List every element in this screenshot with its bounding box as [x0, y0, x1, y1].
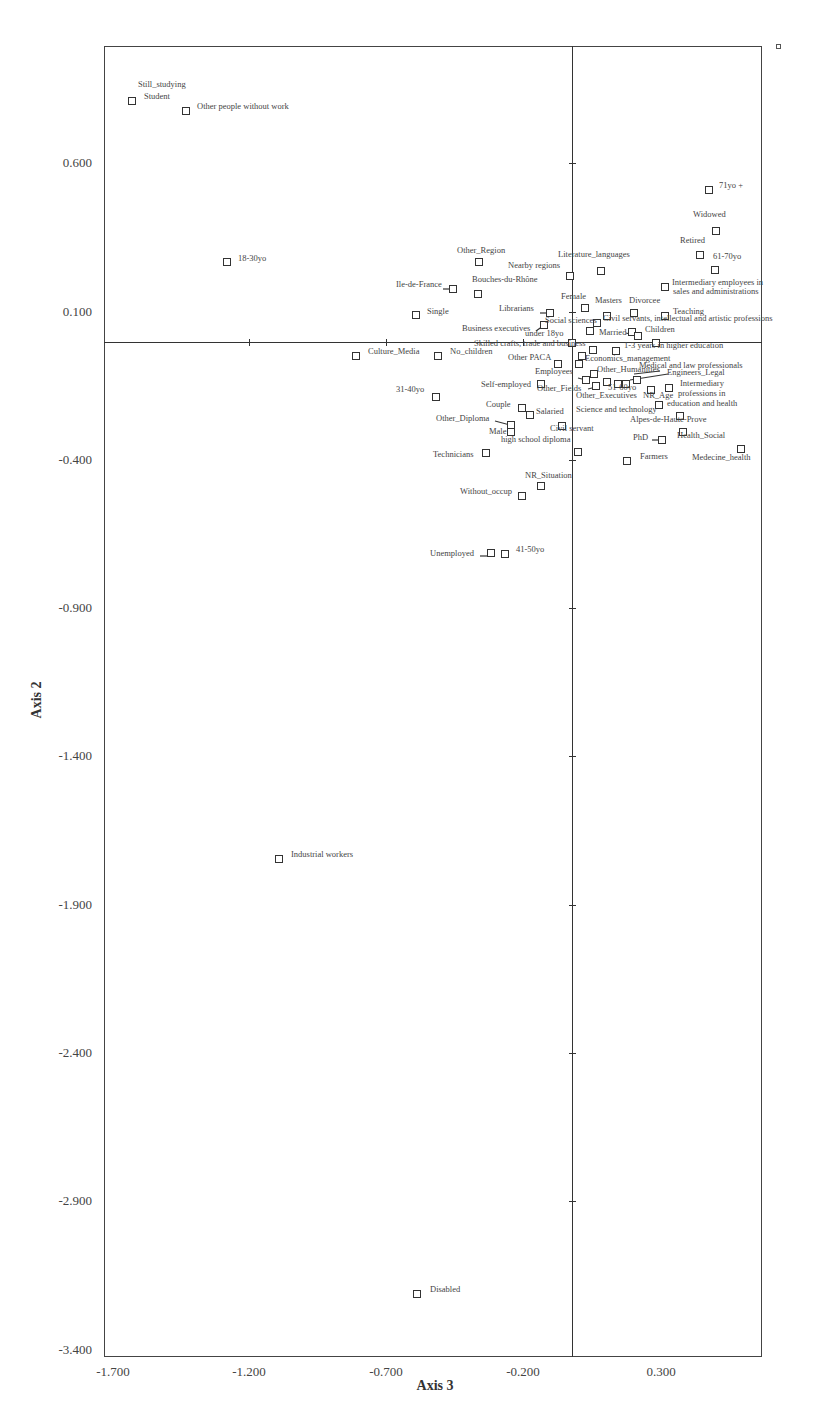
axis-tick	[386, 339, 387, 346]
y-tick-label: -3.400	[58, 1342, 92, 1358]
marker-literature-languages	[597, 267, 605, 275]
point-label: Bouches-du-Rhône	[472, 274, 538, 284]
axis-tick	[569, 608, 576, 609]
legend-marker-icon	[776, 44, 781, 49]
point-label: sales and administrations	[673, 286, 758, 296]
point-label: Widowed	[693, 209, 726, 219]
marker-nr-situation	[537, 482, 545, 490]
point-label: Self-employed	[481, 379, 531, 389]
marker-female	[581, 304, 589, 312]
marker-other-people-without-work	[182, 107, 190, 115]
marker-salaried	[526, 411, 534, 419]
y-tick-label: 0.600	[63, 155, 92, 171]
point-label: Other people without work	[197, 101, 289, 111]
point-label: Other_Humanities	[597, 364, 660, 374]
y-tick-label: -2.400	[58, 1045, 92, 1061]
marker-disabled	[413, 1290, 421, 1298]
point-label: Single	[427, 306, 449, 316]
point-label: professions in	[678, 388, 725, 398]
point-label: NR_Situation	[525, 470, 572, 480]
y-tick-label: -2.900	[58, 1193, 92, 1209]
point-label: Business executives	[462, 323, 530, 333]
axis-tick	[569, 1201, 576, 1202]
point-label: Disabled	[430, 1284, 460, 1294]
point-label: Ile-de-France	[396, 279, 442, 289]
point-label: Couple	[486, 399, 511, 409]
point-label: Unemployed	[430, 548, 474, 558]
point-label: PhD	[633, 432, 648, 442]
axis-tick	[569, 905, 576, 906]
point-label: Alpes-de-Haute-Prove	[630, 414, 706, 424]
point-label: Civil servant	[550, 423, 594, 433]
marker-31-40yo	[432, 393, 440, 401]
x-tick-label: -0.700	[369, 1364, 403, 1380]
point-label: Other_Fields	[537, 383, 581, 393]
axis-tick	[569, 312, 576, 313]
marker-civil-servants-2	[586, 327, 594, 335]
marker-other-region	[475, 258, 483, 266]
point-label: Female	[561, 291, 586, 301]
vertical-zero-axis	[572, 46, 573, 1357]
x-tick-label: 0.300	[646, 1364, 675, 1380]
point-label: Children	[645, 324, 675, 334]
point-label: Librarians	[499, 303, 534, 313]
y-tick-label: -0.900	[58, 600, 92, 616]
point-label: Social sciences	[545, 315, 597, 325]
y-tick-label: 0.100	[63, 304, 92, 320]
marker-71yo	[705, 186, 713, 194]
marker-employees	[582, 376, 590, 384]
axis-tick	[569, 460, 576, 461]
marker-economics-2	[575, 360, 583, 368]
marker-41-50yo	[501, 550, 509, 558]
point-label: Culture_Media	[368, 346, 419, 356]
point-label: Employees	[535, 366, 573, 376]
point-label: Divorcee	[629, 295, 660, 305]
point-label: Still_studying	[138, 79, 186, 89]
point-label: Technicians	[433, 449, 473, 459]
point-label: 61-70yo	[713, 251, 741, 261]
marker-industrial-workers	[275, 855, 283, 863]
marker-high-school-diploma	[574, 448, 582, 456]
x-axis-title: Axis 3	[417, 1378, 454, 1394]
point-label: Other PACA	[508, 352, 551, 362]
point-label: Salaried	[536, 406, 564, 416]
axis-tick	[569, 163, 576, 164]
marker-student	[128, 97, 136, 105]
point-label: Intermediary	[680, 378, 724, 388]
marker-ile-de-france	[449, 285, 457, 293]
point-label: Student	[144, 91, 170, 101]
axis-tick	[249, 339, 250, 346]
marker-farmers	[623, 457, 631, 465]
point-label: 18-30yo	[238, 253, 266, 263]
marker-nearby-regions	[566, 272, 574, 280]
y-axis-title: Axis 2	[29, 682, 45, 719]
point-label: 31-40yo	[396, 384, 424, 394]
marker-no-children	[434, 352, 442, 360]
marker-without-occup	[518, 492, 526, 500]
marker-widowed	[712, 227, 720, 235]
point-label: Other_Executives	[576, 390, 637, 400]
point-label: 41-50yo	[516, 544, 544, 554]
point-label: under 18yo	[525, 328, 563, 338]
marker-other-fields	[592, 382, 600, 390]
point-label: Civil servants, intellectual and artisti…	[603, 313, 773, 323]
y-tick-label: -0.400	[58, 452, 92, 468]
point-label: Engineers_Legal	[667, 367, 725, 377]
marker-culture-media	[352, 352, 360, 360]
point-label: Literature_languages	[558, 249, 630, 259]
x-tick-label: -1.200	[232, 1364, 266, 1380]
point-label: education and health	[667, 398, 737, 408]
point-label: high school diploma	[501, 434, 570, 444]
axis-tick	[569, 1053, 576, 1054]
marker-single	[412, 311, 420, 319]
point-label: Other_Diploma	[436, 413, 489, 423]
point-label: Science and technology	[576, 404, 657, 414]
marker-technicians	[482, 449, 490, 457]
point-label: 71yo +	[719, 180, 743, 190]
marker-18-30yo	[223, 258, 231, 266]
axis-tick	[569, 756, 576, 757]
marker-unemployed	[487, 549, 495, 557]
marker-bouches-du-rhone	[474, 290, 482, 298]
marker-couple	[518, 404, 526, 412]
point-label: No_children	[450, 346, 493, 356]
